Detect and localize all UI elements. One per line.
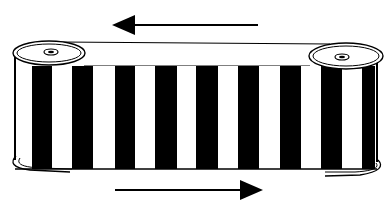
black-stripe [280,66,301,169]
black-stripe [155,66,177,169]
black-stripe [32,66,52,169]
top-arrow [112,15,258,35]
black-stripe [362,66,375,169]
band-top-edge [60,42,330,66]
right-spool [309,43,383,69]
arrow-left-icon [112,15,135,35]
arrow-right-icon [240,180,263,200]
black-stripe [321,66,342,169]
black-stripe [196,66,218,169]
black-stripe [115,66,135,169]
black-stripe [238,66,259,169]
spool-hub-hole [48,51,54,53]
spool-band-diagram [0,0,390,213]
spool-hub-hole [339,56,345,58]
left-spool [13,41,85,65]
black-stripe [72,66,93,169]
bottom-arrow [115,180,263,200]
striped-band [13,56,381,176]
spools [13,41,383,69]
